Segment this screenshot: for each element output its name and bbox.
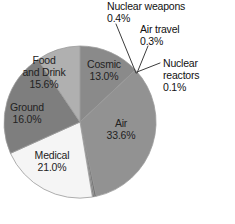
pie-slices bbox=[4, 46, 156, 198]
leader-line-air-travel bbox=[137, 46, 148, 73]
pie-chart: Cosmic 13.0% Air 33.6% Medical 21.0% Gro… bbox=[0, 0, 235, 224]
pie-chart-graphic bbox=[0, 0, 235, 224]
